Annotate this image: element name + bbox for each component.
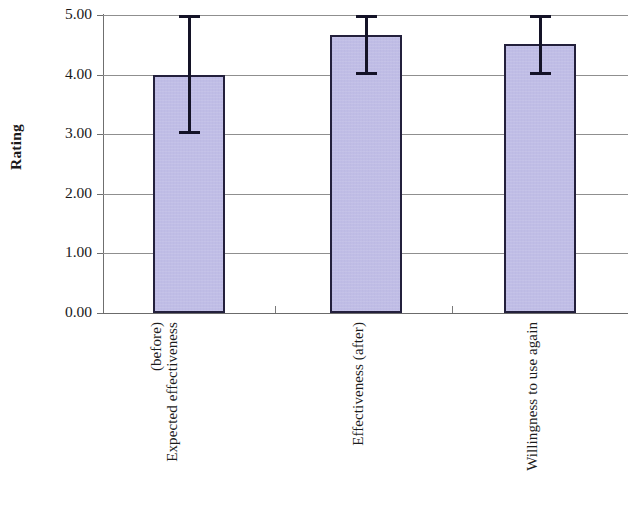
x-axis-category-label-line: Willingness to use again bbox=[524, 322, 540, 471]
x-axis-category-label-line: Expected effectiveness bbox=[164, 322, 180, 462]
y-axis-title: Rating bbox=[7, 112, 25, 182]
gridline bbox=[103, 313, 628, 314]
x-axis-category-label-line: (before) bbox=[148, 322, 164, 371]
y-axis-tick-label: 1.00 bbox=[30, 243, 92, 261]
y-axis-tick bbox=[97, 15, 103, 16]
error-bar-cap-lower bbox=[179, 131, 200, 134]
y-axis-tick-label: 4.00 bbox=[30, 65, 92, 83]
error-bar-cap-lower bbox=[356, 72, 377, 75]
error-bar-cap-lower bbox=[530, 72, 551, 75]
y-axis-tick bbox=[97, 194, 103, 195]
y-axis-tick-label: 2.00 bbox=[30, 184, 92, 202]
y-axis-tick-label: 3.00 bbox=[30, 124, 92, 142]
error-bar-stem bbox=[365, 15, 368, 75]
bar-chart: Rating 0.001.002.003.004.005.00 Expected… bbox=[0, 0, 634, 528]
y-axis-tick bbox=[97, 253, 103, 254]
plot-area bbox=[103, 15, 628, 313]
bar bbox=[504, 44, 576, 313]
category-separator-tick bbox=[452, 306, 453, 313]
y-axis-tick bbox=[97, 313, 103, 314]
y-axis-tick bbox=[97, 75, 103, 76]
error-bar-cap-upper bbox=[179, 15, 200, 18]
x-axis-category-label-line: Effectiveness (after) bbox=[350, 322, 366, 446]
error-bar-cap-upper bbox=[356, 15, 377, 18]
y-axis-tick-label: 0.00 bbox=[30, 303, 92, 321]
y-axis-tick-label: 5.00 bbox=[30, 5, 92, 23]
y-axis-tick-labels: 0.001.002.003.004.005.00 bbox=[30, 0, 92, 330]
error-bar-stem bbox=[188, 15, 191, 134]
category-separator-tick bbox=[275, 306, 276, 313]
bar bbox=[330, 35, 402, 313]
error-bar-cap-upper bbox=[530, 15, 551, 18]
y-axis-tick bbox=[97, 134, 103, 135]
error-bar-stem bbox=[539, 15, 542, 75]
